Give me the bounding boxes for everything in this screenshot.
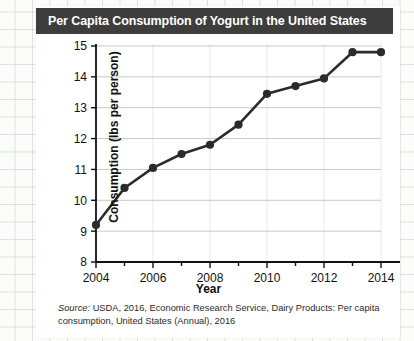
y-axis-tick-label: 9 (80, 225, 87, 239)
data-point-marker (348, 48, 356, 56)
source-label: Source: (58, 303, 90, 313)
x-axis-title: Year (36, 282, 381, 296)
axis-lines (91, 44, 400, 268)
data-point-marker (291, 82, 299, 90)
data-point-marker (149, 164, 157, 172)
figure-card: Per Capita Consumption of Yogurt in the … (36, 6, 400, 338)
y-axis-tick-label: 14 (74, 70, 88, 84)
gridlines-group (96, 44, 381, 262)
line-chart-svg: 15141312111098 200420062008201020122014 (36, 34, 400, 294)
y-axis-tick-label: 12 (74, 132, 88, 146)
y-axis-tick-label: 10 (74, 194, 88, 208)
chart-title: Per Capita Consumption of Yogurt in the … (36, 14, 367, 28)
data-point-marker (234, 121, 242, 129)
y-axis-tick-label: 13 (74, 101, 88, 115)
data-point-marker (263, 90, 271, 98)
data-point-marker (377, 48, 385, 56)
y-axis-title: Consumption (lbs per person) (107, 47, 121, 227)
source-note: Source: USDA, 2016, Economic Research Se… (58, 302, 388, 328)
y-axis-tick-label: 8 (80, 255, 87, 269)
data-point-marker (120, 184, 128, 192)
data-point-marker (206, 141, 214, 149)
chart-title-bar: Per Capita Consumption of Yogurt in the … (36, 8, 393, 34)
y-axis-tick-labels: 15141312111098 (74, 39, 88, 269)
y-axis-tick-label: 11 (75, 163, 88, 177)
data-point-marker (177, 150, 185, 158)
data-point-marker (320, 74, 328, 82)
data-point-marker (92, 221, 100, 229)
source-text: USDA, 2016, Economic Research Service, D… (58, 303, 379, 326)
chart-plot-area: 15141312111098 200420062008201020122014 … (36, 34, 400, 294)
y-axis-tick-label: 15 (74, 39, 88, 53)
